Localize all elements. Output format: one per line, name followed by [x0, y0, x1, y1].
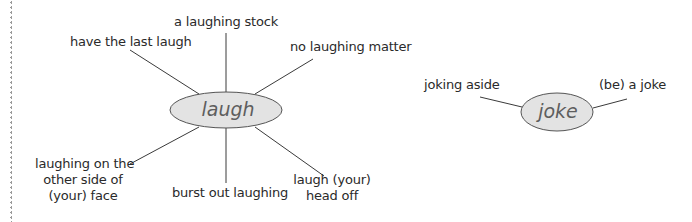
branch-label-bottom: burst out laughing	[172, 185, 282, 201]
branch-label-bottom-left: laughing on the other side of (your) fac…	[35, 156, 131, 204]
branch-label-bottom-left-line-1: laughing on the	[35, 156, 131, 172]
laugh-node: laugh	[176, 98, 280, 120]
branch-label-top: a laughing stock	[166, 14, 286, 30]
branch-label-bottom-right-line-1: laugh (your)	[292, 172, 372, 188]
connector-joke-right	[593, 99, 627, 108]
branch-label-joke-right: (be) a joke	[599, 77, 666, 93]
connector-bottom-left	[130, 127, 199, 164]
connector-joke-left	[480, 97, 522, 107]
branch-label-top-left: have the last laugh	[70, 34, 192, 50]
connector-bottom-right	[255, 127, 324, 176]
branch-label-joke-left: joking aside	[424, 77, 500, 93]
branch-label-bottom-left-line-2: other side of	[35, 172, 131, 188]
branch-label-bottom-right-line-2: head off	[292, 188, 372, 204]
branch-label-top-right: no laughing matter	[290, 39, 411, 55]
branch-label-bottom-left-line-3: (your) face	[35, 188, 131, 204]
connector-top-right	[255, 59, 313, 94]
branch-label-bottom-right: laugh (your) head off	[292, 172, 372, 204]
connector-top-left	[130, 50, 199, 94]
joke-node: joke	[524, 100, 592, 122]
